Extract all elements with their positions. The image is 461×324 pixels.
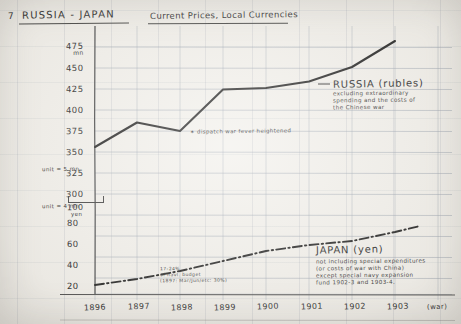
y-axis-label-60: 60 [67,239,79,249]
japan-unit-note: unit = 4 mn [42,204,79,210]
y-axis-label-375: 375 [66,126,84,136]
y-axis-label-40: 40 [67,260,79,270]
x-axis-label-1902: 1902 [344,302,366,312]
russia-series-label: RUSSIA (rubles) [333,77,424,90]
y-axis-label-400: 400 [66,105,84,115]
x-axis-label-1903: 1903 [387,302,409,312]
x-axis-label-war: (war) [427,303,448,312]
x-axis-label-1898: 1898 [171,303,193,313]
y-axis-label-450: 450 [66,63,84,73]
x-axis-label-1901: 1901 [301,302,323,312]
y-axis-label-20: 20 [67,281,79,291]
japan-series-label: JAPAN (yen) [316,243,384,255]
y-axis-label-425: 425 [66,84,84,94]
x-axis-label-1896: 1896 [84,303,106,313]
chart-page: 7 RUSSIA - JAPAN Current Prices, Local C… [0,0,461,324]
russia-unit-note: unit = 5 mn [42,167,79,173]
y-axis-label-80: 80 [67,218,79,228]
x-axis-label-1899: 1899 [214,303,236,313]
russia-series-note: excluding extraordinary spending and the… [333,90,416,112]
x-axis-label-1900: 1900 [257,302,279,312]
japan-budget-share-note: 17-24% of navl. budget (1897: Mar/Jun/et… [160,266,227,285]
y-axis-label-475: 475mn [66,41,84,57]
japan-series-note: not including special expenditures (or c… [316,258,426,287]
y-axis-label-350: 350 [66,147,84,157]
x-axis-label-1897: 1897 [128,302,150,312]
